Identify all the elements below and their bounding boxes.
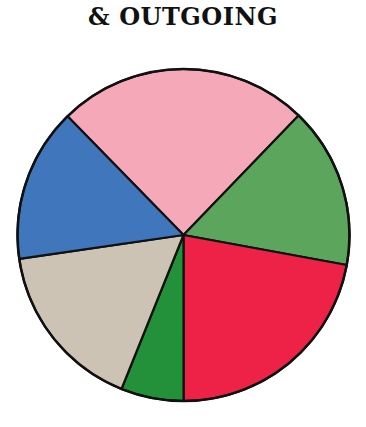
pie-slice-red-segment xyxy=(184,235,347,401)
pie-chart xyxy=(0,0,366,427)
pie-slices xyxy=(18,69,350,401)
